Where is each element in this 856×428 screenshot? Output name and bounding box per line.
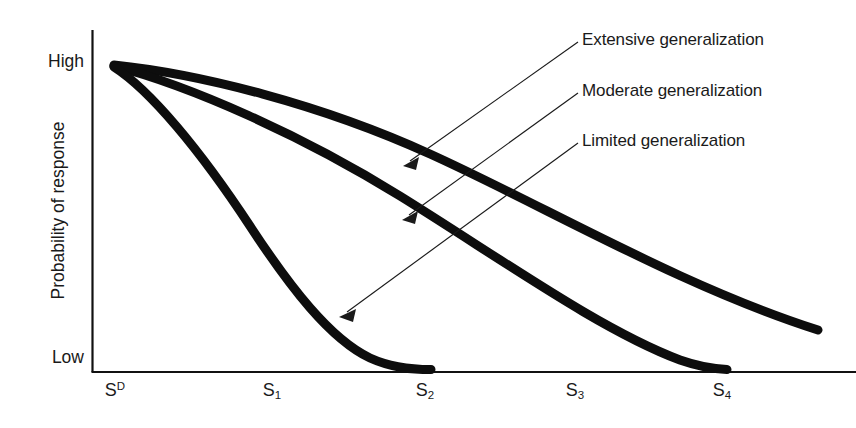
annotation-label-limited: Limited generalization xyxy=(582,132,745,149)
generalization-gradient-figure: Probability of response High Low SD S1 S… xyxy=(0,0,856,428)
x-tick-s3-base: S xyxy=(566,380,578,400)
x-tick-sd-base: S xyxy=(105,380,117,400)
y-tick-high: High xyxy=(20,53,84,71)
x-tick-s2-base: S xyxy=(416,380,428,400)
x-tick-sd: SD xyxy=(85,381,145,399)
x-tick-s1-base: S xyxy=(263,380,275,400)
arrow-head-extensive xyxy=(403,157,419,170)
chart-canvas xyxy=(0,0,856,428)
leader-line-extensive xyxy=(410,42,578,161)
y-axis-title: Probability of response xyxy=(48,61,69,361)
x-tick-s1-subscript: 1 xyxy=(275,389,281,401)
x-tick-s4: S4 xyxy=(692,381,752,399)
x-tick-s1: S1 xyxy=(242,381,302,399)
x-tick-s4-subscript: 4 xyxy=(725,389,731,401)
annotation-label-extensive: Extensive generalization xyxy=(582,31,764,48)
x-tick-s3-subscript: 3 xyxy=(578,389,584,401)
curve-moderate-generalization xyxy=(114,66,727,370)
x-tick-s4-base: S xyxy=(713,380,725,400)
x-tick-s2: S2 xyxy=(395,381,455,399)
y-tick-low: Low xyxy=(20,349,84,367)
x-tick-s2-subscript: 2 xyxy=(428,389,434,401)
x-tick-s3: S3 xyxy=(545,381,605,399)
curve-limited-generalization xyxy=(114,67,431,370)
arrow-head-moderate xyxy=(402,211,418,224)
x-tick-sd-superscript: D xyxy=(117,380,125,392)
annotation-label-moderate: Moderate generalization xyxy=(582,82,762,99)
